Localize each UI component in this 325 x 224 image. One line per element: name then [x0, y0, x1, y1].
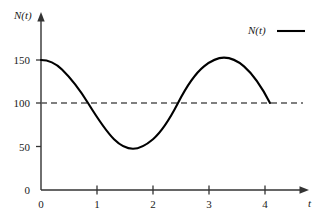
y-tick-label-50: 50 — [4, 142, 30, 153]
x-tick-label-0: 0 — [31, 199, 51, 210]
y-tick-label-100: 100 — [4, 98, 30, 109]
x-axis — [41, 186, 309, 193]
x-tick-label-1: 1 — [87, 199, 107, 210]
x-tick-label-4: 4 — [255, 199, 275, 210]
x-axis-title: t — [308, 198, 311, 209]
x-tick-label-2: 2 — [143, 199, 163, 210]
chart-plot-area — [0, 0, 325, 224]
y-tick-marks — [36, 60, 41, 147]
x-tick-label-3: 3 — [199, 199, 219, 210]
y-tick-label-150: 150 — [4, 55, 30, 66]
chart-figure: N(t) t 150 100 50 0 0 1 2 3 4 N(t) — [0, 0, 325, 224]
y-axis-title: N(t) — [14, 10, 32, 21]
y-tick-label-0: 0 — [4, 185, 30, 196]
y-axis — [37, 12, 44, 190]
legend-label-nt: N(t) — [248, 25, 266, 36]
